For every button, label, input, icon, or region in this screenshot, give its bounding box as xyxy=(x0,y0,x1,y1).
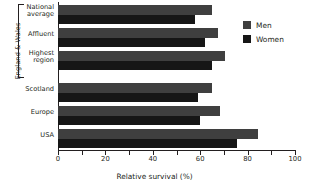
category-label-affluent: Affluent xyxy=(14,31,54,38)
x-tick-label-40: 40 xyxy=(148,155,157,163)
legend-swatch-men-icon xyxy=(243,21,251,29)
category-label-national-average: Nationalaverage xyxy=(14,4,54,19)
bar-highest-region-men xyxy=(58,51,225,61)
category-label-column: NationalaverageAffluentHighestregionScot… xyxy=(20,0,56,150)
category-label-highest-region: Highestregion xyxy=(14,50,54,65)
category-label-usa: USA xyxy=(14,132,54,139)
x-tick-70 xyxy=(224,151,225,155)
x-tick-label-0: 0 xyxy=(56,155,60,163)
bar-europe-men xyxy=(58,106,220,116)
bar-affluent-women xyxy=(58,38,205,48)
bar-scotland-men xyxy=(58,83,212,93)
legend-swatch-women-icon xyxy=(243,35,251,43)
bar-usa-men xyxy=(58,129,258,139)
x-tick-100 xyxy=(295,151,296,155)
bar-scotland-women xyxy=(58,93,198,103)
x-tick-50 xyxy=(177,151,178,155)
x-tick-10 xyxy=(82,151,83,155)
legend-item-women: Women xyxy=(243,32,284,46)
x-tick-30 xyxy=(129,151,130,155)
x-tick-90 xyxy=(271,151,272,155)
bar-affluent-men xyxy=(58,28,218,38)
x-tick-40 xyxy=(153,151,154,155)
x-tick-label-100: 100 xyxy=(289,155,302,163)
category-label-scotland: Scotland xyxy=(14,86,54,93)
legend-label-men: Men xyxy=(256,21,272,30)
y-axis-line xyxy=(58,2,59,150)
category-label-europe: Europe xyxy=(14,109,54,116)
legend-item-men: Men xyxy=(243,18,284,32)
bar-usa-women xyxy=(58,139,237,149)
x-axis-title: Relative survival (%) xyxy=(0,172,309,181)
bar-national-average-men xyxy=(58,5,212,15)
x-tick-60 xyxy=(200,151,201,155)
relative-survival-bar-chart: England & Wales NationalaverageAffluentH… xyxy=(0,0,309,193)
chart-legend: Men Women xyxy=(243,18,284,46)
bar-national-average-women xyxy=(58,15,195,25)
bar-highest-region-women xyxy=(58,61,212,71)
bar-europe-women xyxy=(58,116,200,126)
x-tick-label-80: 80 xyxy=(243,155,252,163)
x-tick-20 xyxy=(105,151,106,155)
x-tick-label-60: 60 xyxy=(196,155,205,163)
x-tick-label-20: 20 xyxy=(101,155,110,163)
legend-label-women: Women xyxy=(256,35,284,44)
x-tick-0 xyxy=(58,151,59,155)
x-tick-80 xyxy=(248,151,249,155)
